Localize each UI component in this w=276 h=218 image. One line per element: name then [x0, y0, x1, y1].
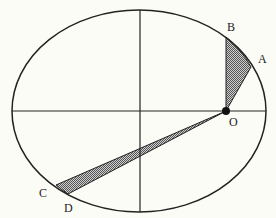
label-c: C [39, 186, 47, 200]
label-a: A [258, 52, 267, 66]
label-o: O [229, 115, 238, 129]
focus-point-o [222, 107, 230, 115]
kepler-ellipse-diagram: O ABCD [0, 0, 276, 218]
label-b: B [227, 20, 235, 34]
label-d: D [64, 201, 73, 215]
sector-OCD [56, 111, 226, 194]
